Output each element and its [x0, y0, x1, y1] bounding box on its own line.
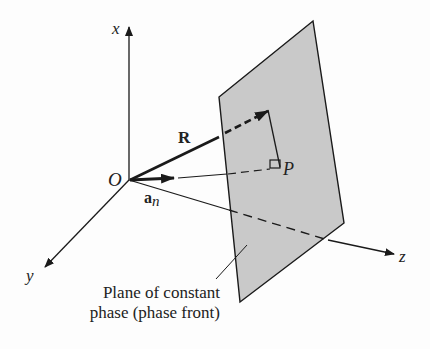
- phase-plane: [219, 21, 344, 302]
- y-axis-label: y: [24, 266, 34, 285]
- y-axis: [45, 180, 129, 267]
- an-vector-base: a: [144, 189, 152, 206]
- r-vector-label: R: [178, 128, 191, 147]
- x-axis-label: x: [111, 19, 120, 38]
- caption-line-1: Plane of constant: [103, 283, 220, 302]
- an-vector-label: an: [144, 189, 160, 209]
- caption-line-2: phase (phase front): [90, 303, 220, 322]
- origin-label: O: [108, 169, 122, 190]
- z-axis-back: [328, 240, 394, 254]
- phase-front-diagram: x y z O R an P Plane of constant phase (…: [0, 0, 430, 349]
- diagram-svg: x y z O R an P Plane of constant phase (…: [0, 0, 430, 349]
- point-p-label: P: [282, 159, 294, 179]
- an-vector: [130, 178, 174, 180]
- r-vector-solid: [130, 137, 219, 180]
- z-axis-label: z: [398, 247, 406, 266]
- normal-line-front: [178, 174, 227, 178]
- an-vector-subscript: n: [152, 193, 160, 209]
